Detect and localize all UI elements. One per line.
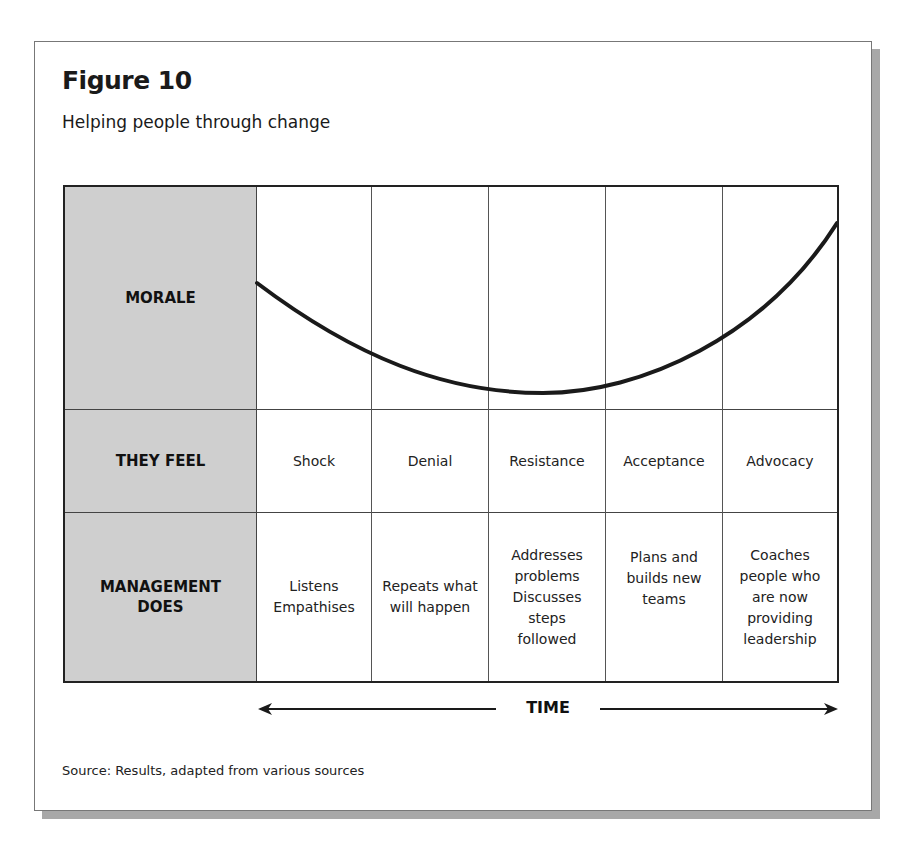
feel-text: Acceptance (623, 451, 704, 472)
source-note: Source: Results, adapted from various so… (62, 763, 364, 778)
does-text: builds new (626, 568, 701, 589)
does-text: Discusses (512, 587, 581, 608)
does-cell-resistance: Addresses problems Discusses steps follo… (489, 513, 605, 681)
change-grid: MORALE THEY FEEL MANAGEMENT DOES Shock D… (63, 185, 839, 683)
feel-text: Denial (408, 451, 453, 472)
feel-cell-advocacy: Advocacy (723, 410, 837, 512)
does-text: Empathises (273, 597, 354, 618)
does-cell-acceptance: Plans and builds new teams (606, 513, 722, 681)
does-text: leadership (743, 629, 816, 650)
feel-cell-acceptance: Acceptance (606, 410, 722, 512)
feel-text: Resistance (509, 451, 584, 472)
does-cell-denial: Repeats what will happen (372, 513, 488, 681)
does-text: followed (518, 629, 577, 650)
they-feel-label: THEY FEEL (116, 451, 205, 471)
row-label-they-feel: THEY FEEL (65, 410, 256, 512)
does-text: people who (740, 566, 821, 587)
does-cell-advocacy: Coaches people who are now providing lea… (723, 513, 837, 681)
feel-cell-denial: Denial (372, 410, 488, 512)
row-label-management-does: MANAGEMENT DOES (65, 513, 256, 681)
does-cell-shock: Listens Empathises (257, 513, 371, 681)
does-text: problems (514, 566, 579, 587)
does-text: providing (747, 608, 813, 629)
does-text: will happen (390, 597, 470, 618)
feel-text: Advocacy (746, 451, 813, 472)
does-text: Plans and (630, 547, 698, 568)
management-label-line1: MANAGEMENT (100, 577, 221, 597)
does-text: Listens (289, 576, 338, 597)
does-text: Addresses (511, 545, 583, 566)
time-label: TIME (518, 698, 578, 717)
does-text: Coaches (750, 545, 809, 566)
feel-cell-resistance: Resistance (489, 410, 605, 512)
time-axis: TIME (258, 697, 838, 721)
figure-subtitle: Helping people through change (62, 112, 330, 132)
does-text: Repeats what (382, 576, 477, 597)
does-text: steps (528, 608, 566, 629)
feel-cell-shock: Shock (257, 410, 371, 512)
management-label-line2: DOES (137, 597, 183, 617)
does-text: are now (752, 587, 808, 608)
figure-title: Figure 10 (62, 66, 192, 95)
feel-text: Shock (293, 451, 335, 472)
does-text: teams (642, 589, 686, 610)
morale-curve (65, 187, 837, 409)
